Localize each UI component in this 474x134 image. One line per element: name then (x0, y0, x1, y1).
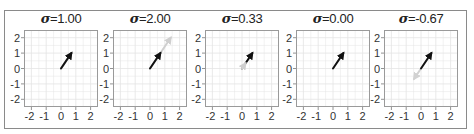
sigma-value: =0.00 (322, 11, 353, 26)
y-tick-label: 2 (14, 32, 20, 44)
x-tick-label: 1 (73, 110, 79, 122)
y-tick-label: -1 (282, 78, 292, 90)
subplot-title: σ=2.00 (100, 11, 200, 26)
y-tick-label: -2 (370, 93, 380, 105)
y-tick-label: 2 (103, 32, 109, 44)
sigma-symbol: σ (130, 11, 139, 26)
x-tick-label: 1 (254, 110, 260, 122)
x-tick-label: -2 (25, 110, 35, 122)
x-tick-label: -2 (297, 110, 307, 122)
x-tick-label: -1 (220, 110, 230, 122)
quiver-plot: -2-1012210-1-2 (296, 30, 370, 107)
subplot-title: σ=0.00 (283, 11, 383, 26)
y-tick-label: -1 (191, 78, 201, 90)
quiver-plot: -2-1012210-1-2 (113, 30, 187, 107)
y-tick-label: 2 (195, 32, 201, 44)
x-tick-label: 2 (177, 110, 183, 122)
y-tick-label: -1 (99, 78, 109, 90)
y-tick-label: -2 (191, 93, 201, 105)
y-tick-label: -1 (10, 78, 20, 90)
x-tick-label: 0 (58, 110, 64, 122)
x-tick-label: 0 (239, 110, 245, 122)
x-tick-label: 0 (418, 110, 424, 122)
x-tick-label: 1 (433, 110, 439, 122)
y-tick-label: 1 (286, 47, 292, 59)
y-tick-label: -2 (99, 93, 109, 105)
sigma-value: =-0.67 (408, 11, 443, 26)
y-tick-label: 1 (14, 47, 20, 59)
y-tick-label: 1 (195, 47, 201, 59)
subplot-title: σ=-0.67 (371, 11, 471, 26)
y-tick-label: -2 (282, 93, 292, 105)
scaled-vector-arrow (414, 69, 421, 79)
subplot-title: σ=0.33 (192, 11, 292, 26)
quiver-plot: -2-1012210-1-2 (24, 30, 98, 107)
y-tick-label: -2 (10, 93, 20, 105)
sigma-value: =0.33 (231, 11, 262, 26)
scaled-vector-arrow (242, 63, 245, 68)
y-tick-label: 0 (374, 63, 380, 75)
x-tick-label: -2 (385, 110, 395, 122)
y-tick-label: 0 (286, 63, 292, 75)
x-tick-label: 1 (162, 110, 168, 122)
sigma-value: =1.00 (50, 11, 81, 26)
y-tick-label: -1 (370, 78, 380, 90)
quiver-plot: -2-1012210-1-2 (205, 30, 279, 107)
x-tick-label: -2 (114, 110, 124, 122)
sigma-symbol: σ (399, 11, 408, 26)
x-tick-label: 1 (345, 110, 351, 122)
x-tick-label: 2 (448, 110, 454, 122)
x-tick-label: 2 (88, 110, 94, 122)
quiver-plot: -2-1012210-1-2 (384, 30, 458, 107)
y-tick-label: 0 (14, 63, 20, 75)
x-tick-label: -1 (128, 110, 138, 122)
x-tick-label: -1 (39, 110, 49, 122)
sigma-symbol: σ (41, 11, 50, 26)
y-tick-label: 0 (103, 63, 109, 75)
x-tick-label: 0 (330, 110, 336, 122)
y-tick-label: 1 (374, 47, 380, 59)
x-tick-label: -1 (399, 110, 409, 122)
x-tick-label: 2 (269, 110, 275, 122)
x-tick-label: 0 (147, 110, 153, 122)
y-tick-label: 0 (195, 63, 201, 75)
sigma-symbol: σ (313, 11, 322, 26)
subplot-title: σ=1.00 (11, 11, 111, 26)
x-tick-label: 2 (360, 110, 366, 122)
x-tick-label: -1 (311, 110, 321, 122)
y-tick-label: 1 (103, 47, 109, 59)
sigma-symbol: σ (222, 11, 231, 26)
y-tick-label: 2 (374, 32, 380, 44)
x-tick-label: -2 (206, 110, 216, 122)
y-tick-label: 2 (286, 32, 292, 44)
sigma-value: =2.00 (139, 11, 170, 26)
